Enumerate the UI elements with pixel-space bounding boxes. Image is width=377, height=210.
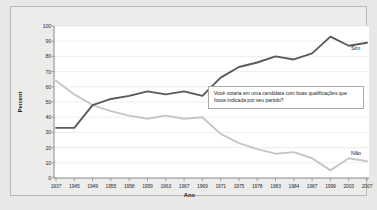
x-tick-1978: 1978 bbox=[252, 183, 263, 189]
y-tick-20: 20 bbox=[45, 145, 51, 151]
x-tick-1987: 1987 bbox=[307, 183, 318, 189]
x-tick-1999: 1999 bbox=[325, 183, 336, 189]
y-axis-title: Percent bbox=[17, 92, 23, 113]
x-tick-1971: 1971 bbox=[215, 183, 226, 189]
x-tick-1955: 1955 bbox=[106, 183, 117, 189]
x-tick-1975: 1975 bbox=[234, 183, 245, 189]
x-tick-1969: 1969 bbox=[197, 183, 208, 189]
x-tick-1967: 1967 bbox=[179, 183, 190, 189]
y-axis-tick-labels: 0102030405060708090100 bbox=[25, 26, 51, 178]
x-tick-2003: 2003 bbox=[343, 183, 354, 189]
series-line-sim bbox=[56, 37, 367, 128]
y-tick-90: 90 bbox=[45, 38, 51, 44]
y-tick-100: 100 bbox=[43, 23, 51, 29]
x-tick-1937: 1937 bbox=[51, 183, 62, 189]
poll-question-annotation: Você votaria em uma candidata com boas q… bbox=[208, 86, 364, 109]
y-tick-10: 10 bbox=[45, 160, 51, 166]
x-tick-1959: 1959 bbox=[142, 183, 153, 189]
y-tick-30: 30 bbox=[45, 129, 51, 135]
series-label-sim: Sim bbox=[351, 45, 360, 51]
x-axis-title: Ano bbox=[11, 192, 368, 198]
x-tick-2007: 2007 bbox=[362, 183, 373, 189]
x-tick-1958: 1958 bbox=[124, 183, 135, 189]
y-tick-40: 40 bbox=[45, 114, 51, 120]
y-tick-50: 50 bbox=[45, 99, 51, 105]
x-tick-1963: 1963 bbox=[160, 183, 171, 189]
series-label-nao: Não bbox=[351, 150, 361, 156]
y-tick-60: 60 bbox=[45, 84, 51, 90]
chart-frame: Percent 0102030405060708090100 193719451… bbox=[10, 6, 367, 196]
y-tick-0: 0 bbox=[48, 175, 51, 181]
x-tick-1949: 1949 bbox=[87, 183, 98, 189]
x-tick-1945: 1945 bbox=[69, 183, 80, 189]
x-tick-1983: 1983 bbox=[270, 183, 281, 189]
x-tick-1984: 1984 bbox=[289, 183, 300, 189]
y-tick-80: 80 bbox=[45, 53, 51, 59]
chart-screenshot: Percent 0102030405060708090100 193719451… bbox=[0, 0, 377, 210]
y-tick-70: 70 bbox=[45, 69, 51, 75]
